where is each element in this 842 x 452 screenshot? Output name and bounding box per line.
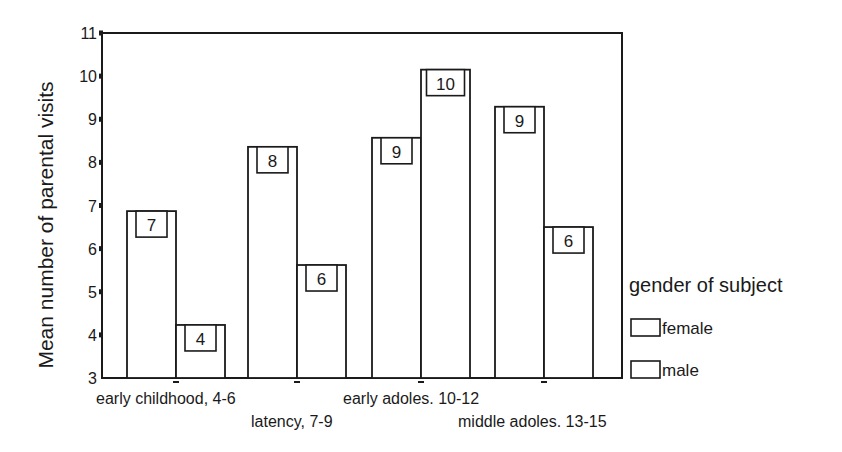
x-tick-mark	[541, 381, 547, 383]
y-tick-label: 4	[88, 327, 97, 344]
y-axis-title: Mean number of parental visits	[34, 81, 57, 368]
y-tick-label: 8	[88, 154, 97, 171]
x-tick-mark	[418, 381, 424, 383]
legend-swatch-male	[631, 361, 660, 378]
y-tick-label: 5	[88, 284, 97, 301]
bar-female	[248, 147, 297, 378]
value-label: 4	[196, 330, 205, 349]
value-label: 6	[564, 232, 573, 251]
y-tick-mark	[99, 289, 103, 294]
x-tick-mark	[294, 381, 300, 383]
bar-male	[421, 70, 470, 378]
x-tick-mark	[173, 381, 179, 383]
y-tick-label: 11	[80, 25, 97, 42]
y-tick-mark	[99, 203, 103, 208]
x-axis: early childhood, 4-6latency, 7-9early ad…	[96, 381, 607, 430]
legend-swatch-female	[631, 319, 660, 336]
y-tick-label: 10	[79, 68, 97, 85]
y-tick-label: 3	[88, 370, 97, 387]
legend-label-male: male	[662, 361, 699, 380]
x-category-label: middle adoles. 13-15	[458, 413, 607, 430]
legend-label-female: female	[662, 319, 713, 338]
y-axis-ticks: 34567891011	[79, 25, 103, 387]
value-label: 7	[147, 216, 156, 235]
y-tick-mark	[99, 246, 103, 251]
x-category-label: early childhood, 4-6	[96, 390, 236, 407]
legend: gender of subject female male	[629, 274, 783, 380]
bar-female	[372, 138, 421, 378]
y-tick-mark	[99, 332, 103, 337]
x-category-label: latency, 7-9	[251, 413, 333, 430]
value-label: 10	[436, 75, 455, 94]
bar-chart: Mean number of parental visits 345678910…	[0, 0, 842, 452]
bar-female	[495, 107, 544, 378]
value-label: 9	[515, 112, 524, 131]
y-tick-label: 9	[88, 111, 97, 128]
y-tick-mark	[99, 74, 103, 79]
y-tick-mark	[99, 31, 103, 36]
value-label: 8	[268, 152, 277, 171]
bars: 748691096	[127, 70, 593, 378]
y-tick-mark	[99, 117, 103, 122]
value-label: 6	[317, 270, 326, 289]
value-label: 9	[392, 143, 401, 162]
legend-title: gender of subject	[629, 274, 783, 296]
y-tick-label: 7	[88, 198, 97, 215]
y-tick-mark	[99, 160, 103, 165]
x-category-label: early adoles. 10-12	[343, 390, 479, 407]
y-tick-label: 6	[88, 241, 97, 258]
